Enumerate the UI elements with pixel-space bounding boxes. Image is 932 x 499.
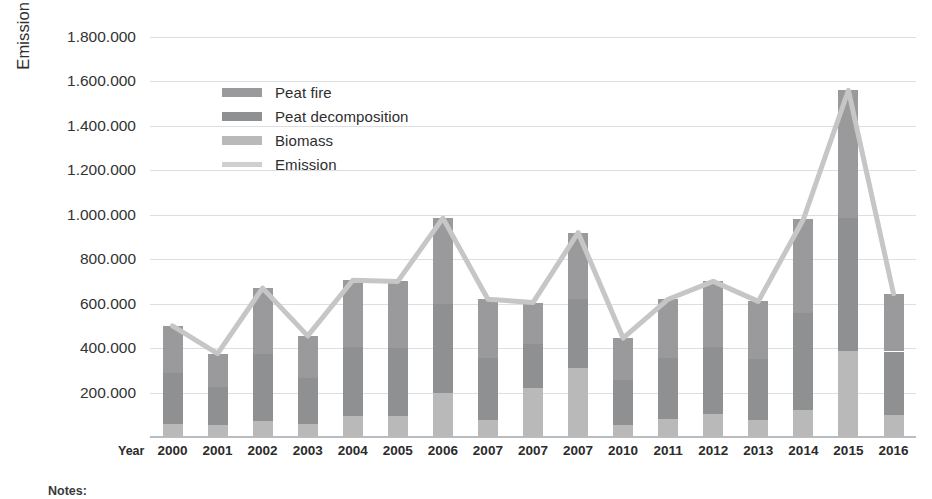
- bar-segment: [253, 288, 273, 354]
- bar-segment: [658, 299, 678, 358]
- legend-item-label: Emission: [275, 156, 337, 173]
- bar-segment: [793, 219, 813, 312]
- legend-color-swatch-icon: [222, 112, 262, 121]
- x-axis-tick-label: 2001: [195, 441, 241, 461]
- notes-label: Notes:: [48, 484, 87, 498]
- legend-item-peat-fire[interactable]: Peat fire: [222, 82, 462, 103]
- bar-segment: [838, 90, 858, 218]
- x-axis: Year 20002001200220032004200520062007200…: [0, 441, 932, 465]
- bar-segment: [523, 303, 543, 344]
- bar-segment: [343, 347, 363, 416]
- y-axis-tick-label: 1.200.000: [18, 162, 136, 178]
- legend-color-swatch-icon: [222, 88, 262, 97]
- bar-group[interactable]: [478, 37, 498, 437]
- bar-segment: [703, 414, 723, 437]
- x-axis-tick-label: 2012: [690, 441, 736, 461]
- bar-segment: [343, 280, 363, 347]
- bar-group[interactable]: [703, 37, 723, 437]
- y-axis-tick-label: 600.000: [18, 296, 136, 312]
- x-axis-tick-label: 2004: [330, 441, 376, 461]
- bar-group[interactable]: [884, 37, 904, 437]
- chart-figure: Emission (Gg CO2e) 1.800.0001.600.0001.4…: [0, 0, 932, 499]
- bar-segment: [163, 373, 183, 424]
- y-axis-tick-label: 400.000: [18, 340, 136, 356]
- legend-item-peat-decomposition[interactable]: Peat decomposition: [222, 106, 462, 127]
- y-axis-tick-label: 200.000: [18, 385, 136, 401]
- bar-segment: [523, 344, 543, 388]
- legend-item-biomass[interactable]: Biomass: [222, 130, 462, 151]
- bar-segment: [163, 424, 183, 437]
- bar-segment: [253, 421, 273, 437]
- y-axis-tick-label: 1.800.000: [18, 29, 136, 45]
- legend-color-swatch-icon: [222, 136, 262, 145]
- bar-segment: [703, 281, 723, 347]
- bar-segment: [208, 425, 228, 437]
- bar-segment: [478, 299, 498, 358]
- bar-segment: [433, 393, 453, 437]
- x-axis-tick-label: 2006: [420, 441, 466, 461]
- bar-segment: [343, 416, 363, 437]
- bar-segment: [478, 358, 498, 420]
- bar-segment: [388, 416, 408, 437]
- bar-group[interactable]: [658, 37, 678, 437]
- x-axis-tick-label: 2007: [510, 441, 556, 461]
- bar-segment: [523, 388, 543, 437]
- bar-segment: [568, 368, 588, 437]
- bar-segment: [298, 336, 318, 378]
- bar-group[interactable]: [793, 37, 813, 437]
- bar-segment: [658, 358, 678, 419]
- bar-segment: [253, 354, 273, 422]
- bar-group[interactable]: [163, 37, 183, 437]
- bar-segment: [884, 294, 904, 352]
- bar-segment: [388, 348, 408, 416]
- bar-segment: [838, 218, 858, 351]
- bar-segment: [298, 424, 318, 437]
- y-axis-tick-label: 800.000: [18, 251, 136, 267]
- chart-legend: Peat firePeat decompositionBiomassEmissi…: [222, 82, 462, 178]
- x-axis-tick-label: 2005: [375, 441, 421, 461]
- bar-segment: [478, 420, 498, 437]
- bar-segment: [748, 420, 768, 437]
- x-axis-tick-label: 2000: [150, 441, 196, 461]
- legend-line-swatch-icon: [222, 162, 262, 167]
- bar-segment: [568, 233, 588, 300]
- bar-group[interactable]: [523, 37, 543, 437]
- bar-segment: [884, 415, 904, 437]
- bar-group[interactable]: [838, 37, 858, 437]
- bar-segment: [388, 281, 408, 348]
- y-axis-tick-label: 1.600.000: [18, 73, 136, 89]
- bar-segment: [793, 313, 813, 411]
- bar-segment: [748, 359, 768, 420]
- bar-segment: [613, 380, 633, 424]
- bar-group[interactable]: [568, 37, 588, 437]
- y-axis-title: Emission (Gg CO2e): [6, 0, 40, 134]
- bar-segment: [748, 301, 768, 359]
- legend-item-label: Biomass: [275, 132, 333, 149]
- y-axis-tick-label: 1.000.000: [18, 207, 136, 223]
- x-axis-tick-label: 2010: [600, 441, 646, 461]
- bar-segment: [433, 304, 453, 393]
- bar-segment: [208, 354, 228, 387]
- bar-segment: [433, 218, 453, 304]
- bar-segment: [703, 347, 723, 414]
- bar-segment: [838, 351, 858, 437]
- bar-group[interactable]: [748, 37, 768, 437]
- x-axis-tick-label: 2015: [825, 441, 871, 461]
- bar-segment: [658, 419, 678, 437]
- x-axis-tick-label: 2002: [240, 441, 286, 461]
- y-axis-tick-label: 1.400.000: [18, 118, 136, 134]
- x-axis-tick-label: 2013: [735, 441, 781, 461]
- x-axis-tick-label: 2011: [645, 441, 691, 461]
- x-axis-tick-label: 2014: [780, 441, 826, 461]
- legend-item-label: Peat fire: [275, 84, 332, 101]
- x-axis-tick-label: 2016: [871, 441, 917, 461]
- bar-segment: [613, 425, 633, 437]
- x-axis-tick-label: 2007: [465, 441, 511, 461]
- bar-group[interactable]: [613, 37, 633, 437]
- x-axis-tick-label: 2003: [285, 441, 331, 461]
- bar-segment: [568, 299, 588, 368]
- legend-item-emission[interactable]: Emission: [222, 154, 462, 175]
- x-axis-tick-label: 2007: [555, 441, 601, 461]
- bar-segment: [613, 338, 633, 380]
- bar-segment: [793, 410, 813, 437]
